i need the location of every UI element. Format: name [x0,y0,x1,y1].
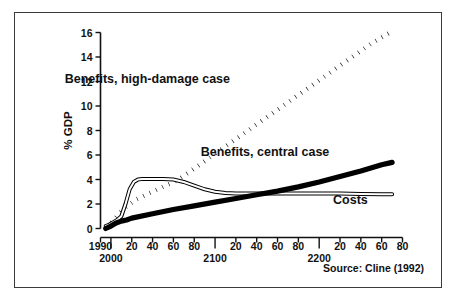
x-tick-label-80: 80 [188,240,200,252]
y-axis-title: % GDP [62,111,74,150]
x-tick-label-80: 80 [397,240,409,252]
y-tick-label-10: 10 [81,100,93,112]
x-tick-label-60: 60 [376,240,388,252]
annotation-benefits-high-damage-case: Benefits, high-damage case [65,72,230,86]
y-tick-label-4: 4 [87,174,93,186]
y-tick-label-6: 6 [87,149,93,161]
x-tick-label-20: 20 [334,240,346,252]
annotation-benefits-central-case: Benefits, central case [201,145,330,159]
y-tick-label-16: 16 [81,27,93,39]
x-tick-label-80: 80 [293,240,305,252]
x-tick-label-2100: 2100 [203,252,227,264]
x-tick-label-40: 40 [355,240,367,252]
x-tick-label-60: 60 [168,240,180,252]
chart-canvas: 0246810121416% GDP1990200020406080210020… [0,0,468,305]
x-tick-label-1990: 1990 [89,240,113,252]
x-tick-label-60: 60 [272,240,284,252]
y-tick-label-2: 2 [87,198,93,210]
x-tick-label-2000: 2000 [99,252,123,264]
x-tick-label-40: 40 [251,240,263,252]
climate-benefits-costs-chart: 0246810121416% GDP1990200020406080210020… [0,0,468,305]
x-tick-label-20: 20 [230,240,242,252]
y-tick-label-0: 0 [87,223,93,235]
x-tick-label-20: 20 [126,240,138,252]
annotation-costs: Costs [333,193,368,207]
source-note: Source: Cline (1992) [323,262,424,274]
y-tick-label-14: 14 [81,51,93,63]
x-tick-label-40: 40 [147,240,159,252]
y-tick-label-8: 8 [87,125,93,137]
